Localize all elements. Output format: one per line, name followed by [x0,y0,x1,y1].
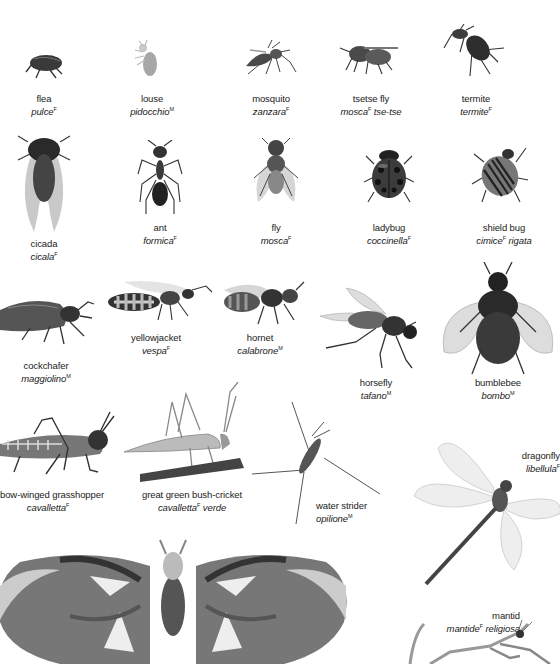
label-horsefly: horsefly tafanoM [346,377,406,401]
great-green-bush-cricket-illustration [120,382,250,482]
label-water-strider: water strider opilioneM [316,500,378,524]
label-bow-winged-grasshopper: bow-winged grasshopper cavallettaF [0,489,96,513]
label-fly: fly moscaF [246,222,306,246]
label-cockchafer: cockchafer maggiolinoM [14,360,78,384]
hornet-illustration [220,276,308,328]
mosquito-illustration [236,38,306,80]
ladybug-illustration [364,144,414,208]
termite-illustration [440,22,508,80]
label-termite: termite termiteF [446,93,506,117]
bumblebee-illustration [440,262,556,378]
label-flea: flea pulceF [14,93,74,117]
horsefly-illustration [316,280,426,370]
label-ladybug: ladybug coccinellaF [356,222,422,246]
cicada-illustration [12,128,76,238]
label-ant: ant formicaF [130,222,190,246]
label-yellowjacket: yellowjacket vespaF [124,332,188,356]
fly-illustration [250,136,302,216]
tsetse-fly-illustration [338,38,402,78]
yellowjacket-illustration [104,278,214,324]
label-cicada: cicada cicalaF [14,238,74,262]
label-mosquito: mosquito zanzaraF [236,93,306,117]
shield-bug-illustration [470,138,530,208]
bow-winged-grasshopper-illustration [0,410,116,482]
louse-illustration [130,38,166,80]
flea-illustration [22,50,66,80]
label-louse: louse pidocchioM [120,93,184,117]
cockchafer-illustration [0,290,96,350]
label-dragonfly: dragonfly libellulaF [510,450,560,474]
mantid-illustration [390,620,560,664]
label-tsetse-fly: tsetse fly moscaF tse-tse [336,93,406,117]
label-shield-bug: shield bug cimiceF rigata [466,222,542,246]
label-bumblebee: bumblebee bomboM [466,377,530,401]
ant-illustration [136,140,184,216]
atlas-moth-illustration [0,536,350,664]
label-great-green-bush-cricket: great green bush-cricket cavallettaF ver… [140,489,244,513]
label-hornet: hornet calabroneM [230,332,290,356]
